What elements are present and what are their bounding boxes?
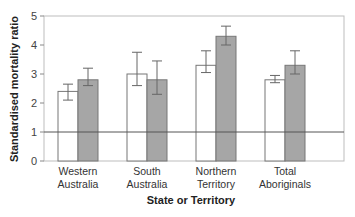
category-label-northern-territory-2: Territory (197, 178, 236, 190)
y-tick-1: 1 (31, 126, 37, 138)
y-tick-0: 0 (31, 155, 37, 167)
category-label-south-australia-2: Australia (127, 178, 168, 190)
bar-series1-cat0 (58, 91, 78, 161)
bar-series2-cat2 (216, 36, 236, 161)
category-label-total-aboriginals-2: Aboriginals (259, 178, 311, 190)
bar-series1-cat2 (196, 65, 216, 161)
y-tick-4: 4 (31, 39, 37, 51)
y-axis: 0 1 2 3 4 5 (31, 10, 44, 167)
bar-series2-cat3 (285, 65, 305, 161)
category-label-western-australia-2: Australia (58, 178, 99, 190)
x-axis-title: State or Territory (147, 194, 236, 206)
y-axis-title: Standardised mortality ratio (8, 16, 20, 162)
category-label-western-australia-1: Western (59, 165, 98, 177)
category-label-total-aboriginals-1: Total (274, 165, 296, 177)
x-axis-labels: Western Australia South Australia Northe… (58, 165, 311, 190)
bar-chart: 0 1 2 3 4 5 Standardised mortality ratio… (0, 0, 355, 217)
bar-series1-cat1 (127, 74, 147, 161)
y-tick-3: 3 (31, 68, 37, 80)
bar-series1-cat3 (265, 80, 285, 161)
bar-series2-cat0 (78, 80, 98, 161)
category-label-south-australia-1: South (133, 165, 161, 177)
y-tick-2: 2 (31, 97, 37, 109)
bars (58, 26, 305, 161)
y-tick-5: 5 (31, 10, 37, 22)
category-label-northern-territory-1: Northern (196, 165, 237, 177)
